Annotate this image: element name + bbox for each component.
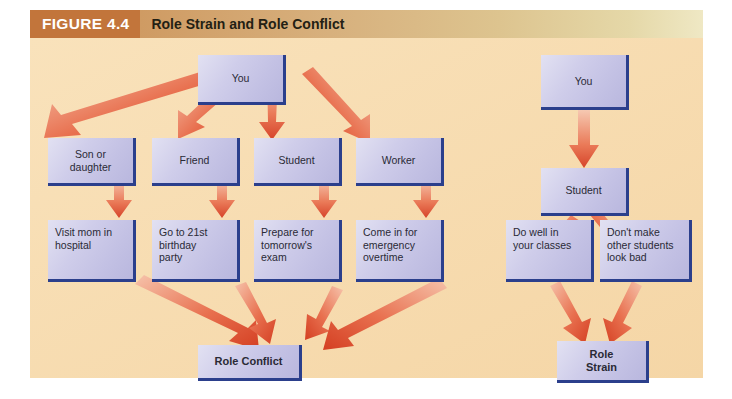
arrow-you-to-worker — [302, 67, 370, 143]
node-do-well[interactable]: Do well in your classes — [506, 220, 594, 282]
node-role-strain[interactable]: Role Strain — [557, 341, 649, 383]
node-label: Son or daughter — [70, 148, 111, 173]
arrow-you-to-son — [44, 68, 222, 138]
node-label: You — [575, 75, 593, 88]
node-label: Worker — [382, 154, 416, 167]
diagram-canvas: You Son or daughter Friend Student Worke… — [30, 38, 703, 378]
arrow-overtime-to-conflict — [323, 278, 447, 350]
node-visit-mom[interactable]: Visit mom in hospital — [48, 220, 136, 282]
node-label: You — [232, 72, 250, 85]
node-student-right[interactable]: Student — [541, 168, 629, 216]
node-you-left[interactable]: You — [198, 55, 286, 105]
node-label: Do well in your classes — [513, 226, 571, 251]
figure-root: FIGURE 4.4 Role Strain and Role Conflict — [0, 0, 732, 399]
node-label: Prepare for tomorrow's exam — [261, 226, 314, 264]
arrow-dontmake-to-strain — [603, 281, 642, 344]
node-label: Don't make other students look bad — [607, 226, 674, 264]
figure-number: FIGURE 4.4 — [30, 15, 139, 33]
node-label: Role Conflict — [215, 355, 283, 368]
node-label: Visit mom in hospital — [55, 226, 112, 251]
node-label: Go to 21st birthday party — [159, 226, 207, 264]
node-son-or-daughter[interactable]: Son or daughter — [48, 138, 136, 186]
node-emergency-overtime[interactable]: Come in for emergency overtime — [356, 220, 444, 282]
arrow-you-to-student-right — [569, 110, 599, 168]
node-friend[interactable]: Friend — [152, 138, 240, 186]
arrow-birthday-to-conflict — [235, 282, 276, 344]
node-label: Come in for emergency overtime — [363, 226, 417, 264]
figure-title: Role Strain and Role Conflict — [139, 16, 344, 32]
arrow-exam-to-conflict — [305, 286, 343, 340]
arrow-dowell-to-strain — [550, 281, 591, 344]
node-worker[interactable]: Worker — [356, 138, 444, 186]
figure-header-bar: FIGURE 4.4 Role Strain and Role Conflict — [30, 10, 703, 38]
node-you-right[interactable]: You — [541, 55, 629, 110]
node-label: Role Strain — [586, 348, 617, 373]
node-dont-make[interactable]: Don't make other students look bad — [600, 220, 692, 282]
node-label: Student — [565, 184, 601, 197]
node-label: Friend — [180, 154, 210, 167]
node-prepare-exam[interactable]: Prepare for tomorrow's exam — [254, 220, 342, 282]
node-student-left[interactable]: Student — [254, 138, 342, 186]
node-birthday-party[interactable]: Go to 21st birthday party — [152, 220, 240, 282]
node-label: Student — [278, 154, 314, 167]
node-role-conflict[interactable]: Role Conflict — [198, 345, 302, 381]
arrow-visit-to-conflict — [135, 275, 259, 350]
